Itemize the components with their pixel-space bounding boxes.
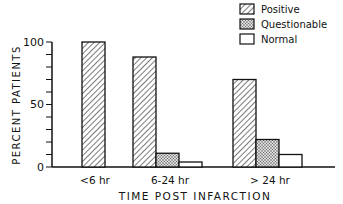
legend-label-questionable: Questionable — [261, 19, 327, 30]
x-axis-label: TIME POST INFARCTION — [118, 190, 272, 202]
x-tick-labels: <6 hr 6-24 hr > 24 hr — [80, 174, 290, 186]
legend-swatch-positive — [240, 4, 254, 14]
bar-positive-2 — [233, 80, 256, 168]
bar-normal-1 — [179, 162, 202, 167]
legend-swatch-questionable — [240, 19, 254, 29]
bar-positive-0 — [82, 42, 105, 167]
bar-positive-1 — [133, 57, 156, 167]
y-tick-50: 50 — [30, 98, 44, 111]
bar-questionable-1 — [156, 153, 179, 167]
bar-normal-2 — [279, 155, 302, 168]
chart-canvas: 100 50 0 PERCENT PATIENTS <6 hr 6-24 hr … — [0, 0, 343, 204]
legend-label-positive: Positive — [261, 4, 300, 15]
x-tick-6-24: 6-24 hr — [151, 174, 190, 186]
y-tick-0: 0 — [37, 161, 44, 174]
y-tick-100: 100 — [23, 36, 44, 49]
legend-swatch-normal — [240, 34, 254, 44]
y-axis: 100 50 0 PERCENT PATIENTS — [11, 36, 52, 174]
legend-label-normal: Normal — [261, 34, 297, 45]
x-tick-lt6: <6 hr — [80, 174, 110, 186]
legend: Positive Questionable Normal — [240, 4, 327, 45]
bars — [82, 42, 302, 167]
bar-questionable-2 — [256, 140, 279, 168]
y-axis-label: PERCENT PATIENTS — [11, 45, 22, 165]
x-tick-gt24: > 24 hr — [250, 174, 290, 186]
